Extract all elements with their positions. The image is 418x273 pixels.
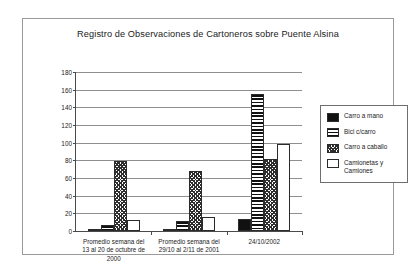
bar-bici-c-carro[interactable] <box>101 225 114 231</box>
bar-group-bars <box>76 72 151 231</box>
bar-carro-a-mano[interactable] <box>88 229 101 231</box>
bar-camionetas-y-camiones[interactable] <box>202 217 215 231</box>
y-axis-tick-label: 60 <box>65 175 72 182</box>
legend-label: Bici c/carro <box>344 128 376 137</box>
x-axis-category-label-line: 29/10 al 2/11 de 2001 <box>142 246 235 254</box>
y-axis-tick-label: 140 <box>61 104 72 111</box>
y-axis-tick-label: 180 <box>61 69 72 76</box>
y-axis-tick-label: 120 <box>61 122 72 129</box>
chart-title: Registro de Observaciones de Cartoneros … <box>23 29 393 39</box>
y-axis-tick-label: 40 <box>65 192 72 199</box>
bar-carro-a-caballo[interactable] <box>114 161 127 231</box>
bar-carro-a-caballo[interactable] <box>189 171 202 231</box>
bar-group: Promedio semana del13 al 20 de octubre d… <box>76 72 151 231</box>
bar-carro-a-mano[interactable] <box>238 219 251 231</box>
legend-label: Carro a caballo <box>344 143 387 152</box>
x-axis-tick-mark <box>302 231 303 235</box>
legend-item[interactable]: Carro a caballo <box>327 143 402 153</box>
legend-item[interactable]: Camionetas y Camiones <box>327 159 402 176</box>
y-axis-tick-mark <box>73 231 76 232</box>
x-axis-tick-mark <box>151 231 152 235</box>
legend-swatch-icon <box>327 159 339 168</box>
legend-item[interactable]: Carro a mano <box>327 112 402 122</box>
legend-item[interactable]: Bici c/carro <box>327 128 402 138</box>
y-axis-tick-label: 80 <box>65 157 72 164</box>
bar-group-bars <box>151 72 226 231</box>
y-axis-tick-label: 0 <box>68 228 72 235</box>
bar-group: 24/10/2002 <box>227 72 302 231</box>
bar-bici-c-carro[interactable] <box>251 94 264 231</box>
bar-camionetas-y-camiones[interactable] <box>127 220 140 231</box>
legend-swatch-icon <box>327 144 339 153</box>
bar-carro-a-mano[interactable] <box>163 229 176 231</box>
legend-swatch-icon <box>327 128 339 137</box>
x-axis-tick-mark <box>227 231 228 235</box>
chart-frame: Registro de Observaciones de Cartoneros … <box>22 18 394 255</box>
x-axis-category-label-line: 2000 <box>67 255 160 263</box>
legend-swatch-icon <box>327 113 339 122</box>
bar-camionetas-y-camiones[interactable] <box>277 144 290 231</box>
x-axis-category-label-line: 24/10/2002 <box>218 238 311 246</box>
y-axis-tick-label: 160 <box>61 86 72 93</box>
bar-bici-c-carro[interactable] <box>176 221 189 231</box>
y-axis-tick-label: 20 <box>65 210 72 217</box>
y-axis-tick-label: 100 <box>61 139 72 146</box>
plot-area: 180160140120100806040200 Promedio semana… <box>75 72 302 232</box>
x-axis-category-label: 24/10/2002 <box>218 238 311 246</box>
bar-group: Promedio semana del29/10 al 2/11 de 2001 <box>151 72 226 231</box>
bar-group-bars <box>227 72 302 231</box>
legend-label: Camionetas y Camiones <box>344 159 402 176</box>
chart-legend: Carro a manoBici c/carroCarro a caballoC… <box>320 105 408 183</box>
bar-carro-a-caballo[interactable] <box>264 159 277 231</box>
legend-label: Carro a mano <box>344 112 383 121</box>
